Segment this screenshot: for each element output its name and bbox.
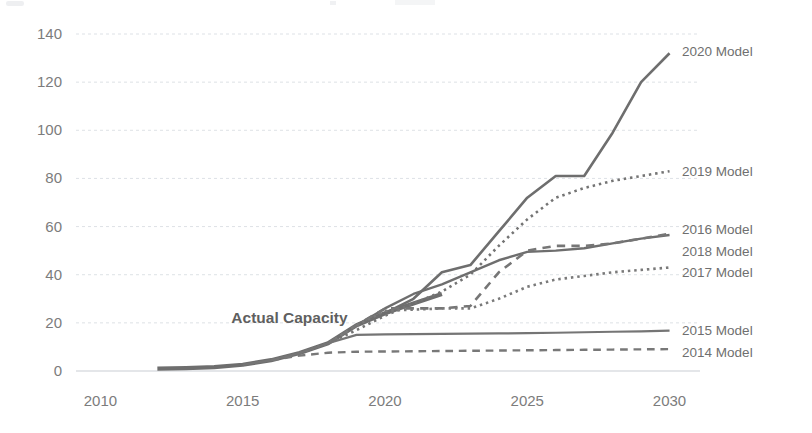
series-line-2017-model (300, 267, 670, 352)
series-line-2019-model (328, 171, 669, 343)
series-label-2015-model: 2015 Model (682, 323, 753, 338)
series-label-2016-model: 2016 Model (682, 222, 753, 237)
y-axis-tick-label: 20 (45, 314, 62, 331)
series-line-2018-model (328, 234, 669, 344)
x-axis-tick-label: 2020 (368, 392, 401, 409)
x-axis-tick-label: 2010 (84, 392, 117, 409)
y-axis-tick-label: 40 (45, 266, 62, 283)
annotation-actual-capacity: Actual Capacity (231, 309, 348, 326)
y-axis-tick-label: 140 (37, 25, 62, 42)
y-axis-tick-label: 120 (37, 73, 62, 90)
y-axis-tick-label: 60 (45, 218, 62, 235)
chart-plot-area: 0204060801001201402010201520202025203020… (0, 0, 812, 433)
series-label-2017-model: 2017 Model (682, 265, 753, 280)
series-line-2020-model (357, 53, 670, 325)
series-line-2014-model (271, 349, 669, 360)
series-line-2015-model (243, 331, 670, 365)
series-label-2020-model: 2020 Model (682, 44, 753, 59)
series-label-2019-model: 2019 Model (682, 164, 753, 179)
x-axis-tick-label: 2015 (226, 392, 259, 409)
series-label-2014-model: 2014 Model (682, 345, 753, 360)
x-axis-tick-label: 2030 (653, 392, 686, 409)
y-axis-tick-label: 0 (54, 362, 62, 379)
y-axis-tick-label: 80 (45, 169, 62, 186)
capacity-projection-chart: 0204060801001201402010201520202025203020… (0, 0, 812, 433)
series-label-2018-model: 2018 Model (682, 244, 753, 259)
y-axis-tick-label: 100 (37, 121, 62, 138)
x-axis-tick-label: 2025 (511, 392, 544, 409)
